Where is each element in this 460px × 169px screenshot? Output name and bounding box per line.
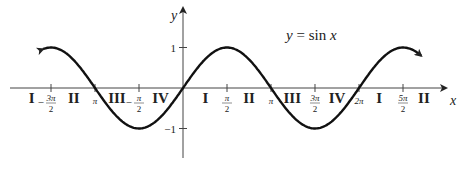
x-tick-label: 3π2– [38,93,57,114]
quadrant-label: I [29,90,35,106]
y-tick-label: 1 [171,42,177,54]
x-tick-label: π2– [126,93,145,114]
quadrant-label: III [108,90,126,106]
svg-text:–: – [38,96,45,107]
svg-text:2: 2 [313,104,318,114]
svg-text:2: 2 [49,104,54,114]
svg-text:3π: 3π [46,93,57,103]
y-axis-label: y [169,8,178,23]
svg-text:π: π [137,93,142,103]
x-tick-label: π [93,96,98,106]
x-tick-label: π [269,96,274,106]
quadrant-label: I [376,90,382,106]
sine-chart: x y y = sin x 3π2–ππ2–π2π3π22π5π21−1 III… [0,0,460,169]
quadrant-label: II [418,90,430,106]
quadrant-label: IV [152,90,169,106]
quadrant-label: I [202,90,208,106]
svg-text:2: 2 [225,104,230,114]
svg-text:2: 2 [137,104,142,114]
svg-text:π: π [225,93,230,103]
x-tick-label: 5π2 [398,93,408,114]
y-tick-label: −1 [164,123,176,135]
x-tick-label: 2π [354,96,364,106]
svg-text:3π: 3π [309,93,320,103]
x-tick-label: 3π2 [309,93,320,114]
quadrant-label: II [243,90,255,106]
quadrant-labels: IIIIIIIVIIIIIIIVIII [29,90,430,106]
quadrant-label: II [68,90,80,106]
svg-text:–: – [126,96,133,107]
svg-text:2: 2 [401,104,406,114]
quadrant-label: III [283,90,301,106]
svg-text:5π: 5π [398,93,408,103]
x-tick-label: π2 [222,93,232,114]
quadrant-label: IV [329,90,346,106]
chart-title: y = sin x [284,27,337,43]
x-axis-label: x [449,93,457,108]
